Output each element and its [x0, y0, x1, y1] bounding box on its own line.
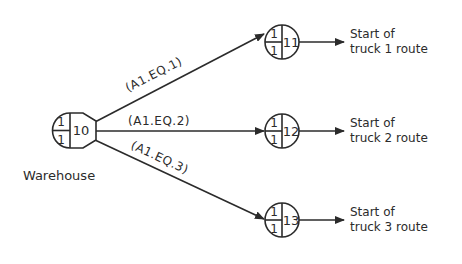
node-12: 1 1 12	[265, 114, 299, 148]
node-13: 1 1 13	[265, 203, 299, 237]
node-11-bottom-slot: 1	[270, 44, 278, 58]
node-13-bottom-slot: 1	[270, 222, 278, 236]
dest-13-line1: Start of	[350, 205, 395, 219]
edge-label-1: (A1.EQ.1)	[123, 54, 185, 95]
dest-11-line1: Start of	[350, 27, 395, 41]
node-11-top-slot: 1	[270, 27, 278, 41]
node-12-bottom-slot: 1	[270, 133, 278, 147]
node-13-id: 13	[283, 213, 300, 228]
warehouse-bottom-slot: 1	[57, 133, 65, 147]
dest-13-line2: truck 3 route	[350, 220, 428, 234]
edge-10-13: (A1.EQ.3)	[95, 138, 264, 219]
warehouse-label: Warehouse	[23, 168, 95, 183]
node-11-id: 11	[283, 35, 300, 50]
edge-label-2: (A1.EQ.2)	[128, 114, 190, 128]
node-12-id: 12	[283, 124, 300, 139]
node-11: 1 1 11	[265, 25, 299, 59]
dest-12-line1: Start of	[350, 116, 395, 130]
node-12-top-slot: 1	[270, 116, 278, 130]
edge-10-11: (A1.EQ.1)	[95, 34, 264, 122]
warehouse-node: 1 1 10	[53, 113, 97, 148]
network-diagram: (A1.EQ.1) (A1.EQ.2) (A1.EQ.3) 1 1 10 War…	[0, 0, 462, 264]
node-13-top-slot: 1	[270, 205, 278, 219]
dest-11-line2: truck 1 route	[350, 42, 428, 56]
dest-12-line2: truck 2 route	[350, 131, 428, 145]
warehouse-node-id: 10	[73, 123, 90, 138]
edge-10-12: (A1.EQ.2)	[95, 114, 264, 131]
warehouse-top-slot: 1	[57, 115, 65, 129]
